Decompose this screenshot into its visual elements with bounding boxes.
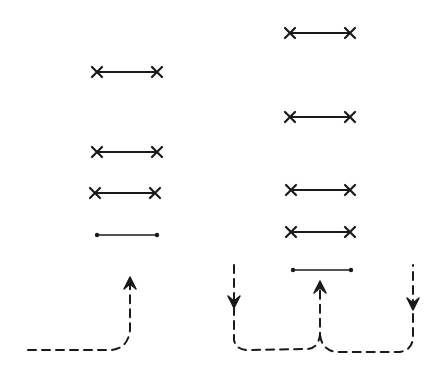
segment <box>291 268 353 272</box>
diagram-canvas <box>0 0 443 371</box>
segment <box>92 147 162 157</box>
segment <box>90 188 160 198</box>
segment <box>92 67 162 77</box>
segment <box>285 28 355 38</box>
dot-endpoint-icon <box>95 233 99 237</box>
right-column <box>228 28 419 352</box>
dashed-path <box>28 285 130 350</box>
segment <box>95 233 159 237</box>
dot-endpoint-icon <box>155 233 159 237</box>
left-column <box>28 67 162 350</box>
dashed-flow-arrow <box>28 277 136 350</box>
diagram-svg <box>0 0 443 371</box>
segment <box>286 227 355 237</box>
dot-endpoint-icon <box>349 268 353 272</box>
dashed-path <box>234 265 320 350</box>
segment <box>285 112 355 122</box>
dashed-flow-arrow <box>228 265 320 350</box>
segment <box>286 185 355 195</box>
dot-endpoint-icon <box>291 268 295 272</box>
dashed-path <box>320 265 413 352</box>
dashed-flow-arrow <box>314 265 413 352</box>
